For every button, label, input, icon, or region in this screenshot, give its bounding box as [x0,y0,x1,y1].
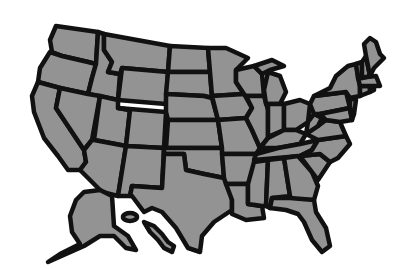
state-wyoming[interactable] [118,68,168,104]
state-hawaii-island-1[interactable] [123,213,137,221]
state-michigan[interactable] [264,72,286,104]
state-maine[interactable] [364,38,384,76]
state-alaska[interactable] [48,190,136,262]
state-kansas[interactable] [166,120,222,148]
state-florida[interactable] [270,198,330,252]
state-new-york[interactable] [314,64,360,98]
state-michigan-upper[interactable] [254,60,284,74]
state-delaware[interactable] [350,110,354,120]
state-north-dakota[interactable] [168,46,210,72]
us-map [0,0,410,270]
state-hawaii-islands[interactable] [144,222,174,252]
